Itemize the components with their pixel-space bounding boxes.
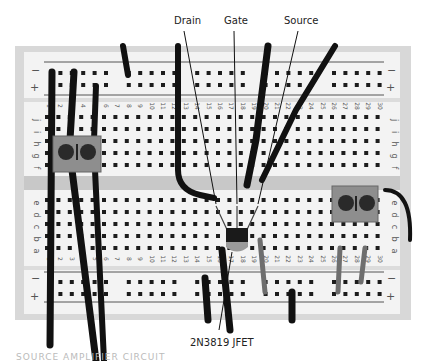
- hole: [182, 246, 186, 250]
- hole: [148, 151, 152, 155]
- hole: [56, 246, 60, 250]
- hole: [79, 198, 83, 202]
- rail-minus-bottom-right: −: [387, 272, 396, 285]
- hole: [227, 139, 231, 143]
- hole: [296, 222, 300, 226]
- hole: [58, 280, 62, 284]
- hole: [58, 71, 62, 75]
- hole: [148, 198, 152, 202]
- hole: [309, 292, 313, 296]
- hole: [307, 210, 311, 214]
- hole: [172, 292, 176, 296]
- hole: [241, 280, 245, 284]
- hole: [102, 151, 106, 155]
- hole: [262, 210, 266, 214]
- hole: [93, 71, 97, 75]
- hole: [218, 83, 222, 87]
- hole: [250, 198, 254, 202]
- hole: [102, 115, 106, 119]
- hole: [378, 71, 382, 75]
- hole: [182, 198, 186, 202]
- hole: [216, 151, 220, 155]
- hole: [216, 127, 220, 131]
- hole: [170, 210, 174, 214]
- hole: [275, 280, 279, 284]
- hole: [343, 71, 347, 75]
- column-number-bottom: 10: [149, 255, 156, 263]
- hole: [218, 71, 222, 75]
- hole: [353, 222, 357, 226]
- hole: [250, 115, 254, 119]
- hole: [332, 83, 336, 87]
- hole: [102, 163, 106, 167]
- column-number-bottom: 12: [171, 255, 178, 263]
- faded-caption: SOURCE AMPLIFIER CIRCUIT: [16, 352, 165, 361]
- hole: [159, 139, 163, 143]
- hole: [273, 198, 277, 202]
- hole: [298, 280, 302, 284]
- hole: [284, 198, 288, 202]
- hole: [286, 280, 290, 284]
- hole: [207, 71, 211, 75]
- column-number-bottom: 19: [251, 255, 258, 263]
- hole: [273, 139, 277, 143]
- hole: [68, 246, 72, 250]
- hole: [229, 280, 233, 284]
- rail-plus-top-right: +: [386, 81, 395, 94]
- hole: [182, 210, 186, 214]
- hole: [195, 292, 199, 296]
- hole: [284, 115, 288, 119]
- column-number-bottom: 14: [194, 255, 201, 263]
- column-number-top: 29: [365, 102, 372, 110]
- hole: [205, 163, 209, 167]
- column-number-bottom: 13: [183, 255, 190, 263]
- hole: [193, 210, 197, 214]
- hole: [218, 280, 222, 284]
- hole: [343, 280, 347, 284]
- hole: [159, 198, 163, 202]
- hole: [364, 115, 368, 119]
- hole: [91, 234, 95, 238]
- hole: [229, 83, 233, 87]
- hole: [376, 127, 380, 131]
- hole: [284, 139, 288, 143]
- column-number-bottom: 9: [137, 257, 144, 261]
- hole: [216, 234, 220, 238]
- column-number-top: 13: [183, 102, 190, 110]
- hole: [273, 210, 277, 214]
- hole: [332, 280, 336, 284]
- hole: [93, 280, 97, 284]
- hole: [330, 246, 334, 250]
- hole: [364, 127, 368, 131]
- hole: [70, 280, 74, 284]
- hole: [205, 210, 209, 214]
- row-label-right: b: [390, 236, 399, 241]
- hole: [113, 127, 117, 131]
- hole: [241, 71, 245, 75]
- hole: [170, 151, 174, 155]
- column-number-bottom: 28: [354, 255, 361, 263]
- hole: [161, 71, 165, 75]
- row-label-right: h: [390, 141, 399, 146]
- hole: [138, 83, 142, 87]
- hole: [341, 127, 345, 131]
- hole: [216, 163, 220, 167]
- hole: [136, 246, 140, 250]
- hole: [68, 198, 72, 202]
- column-number-bottom: 23: [297, 255, 304, 263]
- hole: [275, 71, 279, 75]
- bottom-rail-divider: [24, 266, 400, 270]
- hole: [182, 163, 186, 167]
- hole: [307, 198, 311, 202]
- hole: [319, 115, 323, 119]
- row-label-left: a: [32, 249, 41, 254]
- label-part: 2N3819 JFET: [190, 337, 254, 348]
- hole: [68, 234, 72, 238]
- hole: [193, 127, 197, 131]
- column-number-bottom: 15: [206, 255, 213, 263]
- hole: [136, 127, 140, 131]
- hole: [353, 139, 357, 143]
- hole: [284, 163, 288, 167]
- hole: [250, 127, 254, 131]
- hole: [319, 163, 323, 167]
